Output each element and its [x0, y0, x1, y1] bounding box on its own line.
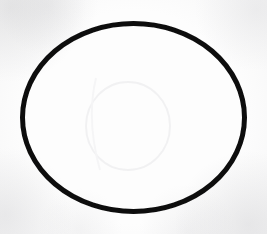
scanned-image-canvas — [0, 0, 267, 234]
ellipse-outline — [23, 24, 245, 212]
ink-layer — [0, 0, 267, 234]
